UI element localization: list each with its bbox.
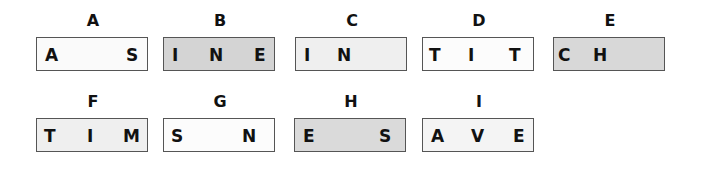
box-letter: T bbox=[509, 45, 521, 65]
box-letter: A bbox=[431, 126, 444, 146]
box-letter: S bbox=[126, 45, 138, 65]
box-letter: S bbox=[171, 126, 183, 146]
box-letter: A bbox=[45, 45, 58, 65]
letter-box: SN bbox=[163, 118, 275, 152]
item-label: F bbox=[36, 92, 150, 111]
box-letter: N bbox=[242, 126, 256, 146]
box-letter: N bbox=[209, 45, 223, 65]
box-letter: H bbox=[593, 45, 607, 65]
box-letter: I bbox=[304, 45, 310, 65]
box-letter: M bbox=[123, 126, 140, 146]
letter-box: INE bbox=[163, 37, 275, 71]
item-label: E bbox=[553, 11, 667, 30]
box-letter: I bbox=[87, 126, 93, 146]
box-letter: N bbox=[337, 45, 351, 65]
item-label: A bbox=[36, 11, 150, 30]
box-letter: T bbox=[44, 126, 56, 146]
letter-box: TIT bbox=[422, 37, 534, 71]
letter-box: IN bbox=[295, 37, 407, 71]
letter-box: ES bbox=[294, 118, 406, 152]
box-letter: E bbox=[254, 45, 266, 65]
box-letter: E bbox=[513, 126, 525, 146]
box-letter: E bbox=[303, 126, 315, 146]
item-label: B bbox=[163, 11, 277, 30]
letter-box: TIM bbox=[36, 118, 148, 152]
box-letter: I bbox=[468, 45, 474, 65]
item-label: I bbox=[422, 92, 536, 111]
box-letter: I bbox=[172, 45, 178, 65]
box-letter: V bbox=[471, 126, 484, 146]
item-label: C bbox=[295, 11, 409, 30]
letter-box: CH bbox=[553, 37, 665, 71]
letter-box: AVE bbox=[422, 118, 534, 152]
item-label: G bbox=[163, 92, 277, 111]
box-letter: S bbox=[379, 126, 391, 146]
item-label: H bbox=[294, 92, 408, 111]
box-letter: T bbox=[429, 45, 441, 65]
box-letter: C bbox=[558, 45, 570, 65]
item-label: D bbox=[422, 11, 536, 30]
letter-box: AS bbox=[36, 37, 148, 71]
